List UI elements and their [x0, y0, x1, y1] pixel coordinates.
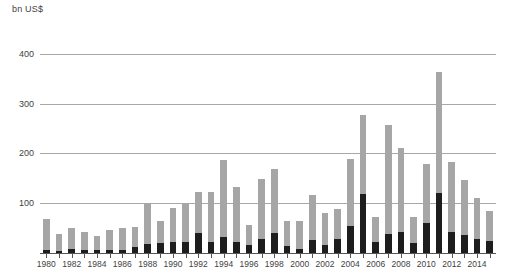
bar-lower-segment — [474, 239, 481, 254]
bar-lower-segment — [385, 234, 392, 254]
bar-1986 — [119, 228, 126, 254]
bar-upper-segment — [246, 225, 253, 245]
bar-upper-segment — [144, 204, 151, 244]
x-axis-tick-mark — [236, 254, 237, 258]
bar-2012 — [448, 162, 455, 254]
bar-upper-segment — [208, 192, 215, 242]
x-axis-tick-mark — [135, 254, 136, 258]
bar-upper-segment — [410, 217, 417, 243]
x-axis-tick-mark — [148, 254, 149, 258]
x-axis-tick-label: 2014 — [468, 260, 487, 269]
bar-1993 — [208, 192, 215, 254]
bar-chart-figure: bn US$ 100200300400 19801982198419861988… — [0, 0, 510, 276]
bar-lower-segment — [195, 233, 202, 254]
x-axis-tick-mark — [300, 254, 301, 258]
bar-upper-segment — [56, 234, 63, 251]
x-axis-tick-mark — [173, 254, 174, 258]
bar-upper-segment — [94, 236, 101, 250]
x-axis-tick-mark — [338, 254, 339, 258]
bar-2003 — [334, 209, 341, 254]
x-axis-tick-mark — [388, 254, 389, 258]
bar-1983 — [81, 232, 88, 254]
bar-2000 — [296, 221, 303, 254]
x-axis-tick-mark — [198, 254, 199, 258]
x-axis-tick-label: 1982 — [62, 260, 81, 269]
bar-2010 — [423, 164, 430, 254]
bar-upper-segment — [119, 228, 126, 249]
x-axis-tick-label: 1992 — [189, 260, 208, 269]
bar-upper-segment — [372, 217, 379, 242]
x-axis-tick-mark — [414, 254, 415, 258]
x-axis-tick-mark — [249, 254, 250, 258]
bar-1992 — [195, 192, 202, 254]
x-axis-tick-mark — [452, 254, 453, 258]
bar-upper-segment — [423, 164, 430, 223]
x-axis-tick-mark — [426, 254, 427, 258]
bar-upper-segment — [486, 211, 493, 241]
bar-upper-segment — [385, 125, 392, 234]
bar-1995 — [233, 187, 240, 254]
x-axis-tick-label: 2006 — [366, 260, 385, 269]
bar-lower-segment — [398, 232, 405, 254]
bar-2005 — [360, 115, 367, 254]
bar-upper-segment — [296, 221, 303, 249]
bar-upper-segment — [461, 180, 468, 235]
bar-upper-segment — [220, 160, 227, 236]
x-axis-tick-mark — [224, 254, 225, 258]
x-axis-tick-label: 2004 — [341, 260, 360, 269]
plot-area: 100200300400 198019821984198619881990199… — [40, 40, 496, 254]
bar-upper-segment — [347, 159, 354, 225]
bar-lower-segment — [271, 233, 278, 254]
bar-1996 — [246, 225, 253, 254]
bar-1998 — [271, 169, 278, 254]
bar-upper-segment — [68, 228, 75, 249]
x-axis-tick-label: 1988 — [138, 260, 157, 269]
bar-2001 — [309, 195, 316, 254]
x-axis-tick-mark — [363, 254, 364, 258]
bar-upper-segment — [322, 213, 329, 245]
x-axis-tick-mark — [84, 254, 85, 258]
y-axis-tick-label: 200 — [19, 149, 34, 158]
y-axis-tick-label: 100 — [19, 199, 34, 208]
bar-upper-segment — [398, 148, 405, 232]
x-axis-tick-label: 1986 — [113, 260, 132, 269]
x-axis-baseline — [40, 253, 496, 254]
bar-1981 — [56, 234, 63, 254]
bar-lower-segment — [436, 193, 443, 254]
x-axis-tick-mark — [274, 254, 275, 258]
bar-1988 — [144, 204, 151, 254]
x-axis-tick-mark — [350, 254, 351, 258]
x-axis-tick-label: 2012 — [442, 260, 461, 269]
bar-upper-segment — [436, 72, 443, 193]
x-axis-tick-mark — [211, 254, 212, 258]
bar-1989 — [157, 221, 164, 254]
x-axis-tick-label: 2008 — [392, 260, 411, 269]
x-axis-tick-label: 1980 — [37, 260, 56, 269]
bar-lower-segment — [258, 239, 265, 254]
bar-1980 — [43, 219, 50, 254]
bar-2014 — [474, 198, 481, 254]
x-axis-tick-mark — [46, 254, 47, 258]
bar-1990 — [170, 208, 177, 254]
bar-lower-segment — [360, 194, 367, 254]
bar-upper-segment — [43, 219, 50, 250]
bar-1982 — [68, 228, 75, 254]
bar-1985 — [106, 230, 113, 254]
bar-upper-segment — [233, 187, 240, 241]
bar-upper-segment — [258, 179, 265, 239]
bar-2015 — [486, 211, 493, 254]
x-axis-tick-mark — [464, 254, 465, 258]
bar-upper-segment — [334, 209, 341, 239]
bar-1994 — [220, 160, 227, 254]
bar-upper-segment — [182, 204, 189, 242]
bar-upper-segment — [170, 208, 177, 241]
bar-upper-segment — [106, 230, 113, 249]
bar-upper-segment — [157, 221, 164, 243]
x-axis-tick-mark — [401, 254, 402, 258]
bar-upper-segment — [271, 169, 278, 233]
x-axis-tick-mark — [59, 254, 60, 258]
x-axis-tick-label: 2000 — [290, 260, 309, 269]
x-axis-tick-label: 1990 — [164, 260, 183, 269]
bar-upper-segment — [360, 115, 367, 195]
x-axis-tick-mark — [376, 254, 377, 258]
